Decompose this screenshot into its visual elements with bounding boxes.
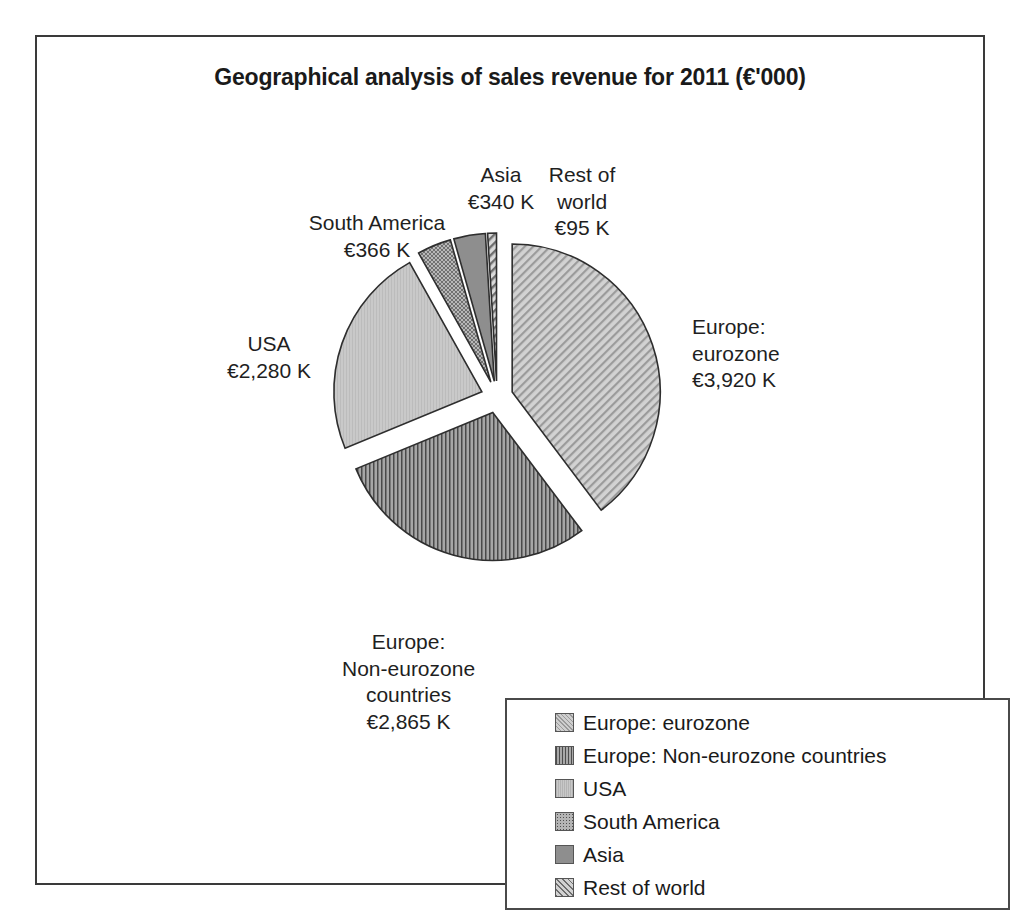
chart-frame: Geographical analysis of sales revenue f… <box>35 35 985 885</box>
slice-label-eurozone: Europe: eurozone €3,920 K <box>692 314 780 394</box>
legend-label: Europe: Non-eurozone countries <box>583 744 887 768</box>
legend-label: Asia <box>583 843 624 867</box>
legend-label: South America <box>583 810 720 834</box>
slice-label-noneurozone-line1: Europe: <box>342 629 475 656</box>
slice-label-noneurozone-line2: Non-eurozone <box>342 656 475 683</box>
legend-item[interactable]: Asia <box>555 838 1008 871</box>
slice-label-noneurozone-value: €2,865 K <box>342 709 475 736</box>
slice-label-eurozone-value: €3,920 K <box>692 367 780 394</box>
legend-item[interactable]: USA <box>555 772 1008 805</box>
legend-label: Rest of world <box>583 876 706 900</box>
legend-label: Europe: eurozone <box>583 711 750 735</box>
slice-label-usa-line1: USA <box>189 331 349 358</box>
slice-label-southamerica: South America €366 K <box>282 210 472 263</box>
legend-label: USA <box>583 777 626 801</box>
pie-slice[interactable] <box>512 244 660 510</box>
legend-item[interactable]: Europe: eurozone <box>555 706 1008 739</box>
legend-swatch-usa-icon <box>555 779 574 798</box>
pie-slice[interactable] <box>488 233 497 381</box>
legend-item[interactable]: Rest of world <box>555 871 1008 904</box>
page-title: Geographical analysis of sales revenue f… <box>37 64 983 91</box>
pie-slice[interactable] <box>334 263 482 449</box>
legend-swatch-restofworld-icon <box>555 878 574 897</box>
slice-label-southamerica-value: €366 K <box>282 237 472 264</box>
slice-label-usa-value: €2,280 K <box>189 358 349 385</box>
chart-legend: Europe: eurozone Europe: Non-eurozone co… <box>505 698 1010 910</box>
legend-swatch-asia-icon <box>555 845 574 864</box>
slice-label-restofworld-line1: Rest of <box>532 162 632 189</box>
legend-item[interactable]: South America <box>555 805 1008 838</box>
slice-label-restofworld-line2: world <box>532 189 632 216</box>
legend-swatch-noneurozone-icon <box>555 746 574 765</box>
legend-item[interactable]: Europe: Non-eurozone countries <box>555 739 1008 772</box>
pie-slice[interactable] <box>356 412 582 560</box>
slice-label-noneurozone: Europe: Non-eurozone countries €2,865 K <box>342 629 475 736</box>
slice-label-eurozone-line1: Europe: <box>692 314 780 341</box>
legend-swatch-southamerica-icon <box>555 812 574 831</box>
slice-label-usa: USA €2,280 K <box>189 331 349 384</box>
slice-label-restofworld-value: €95 K <box>532 215 632 242</box>
slice-label-noneurozone-line3: countries <box>342 682 475 709</box>
slice-label-restofworld: Rest of world €95 K <box>532 162 632 242</box>
legend-swatch-eurozone-icon <box>555 713 574 732</box>
slice-label-southamerica-line1: South America <box>282 210 472 237</box>
slice-label-eurozone-line2: eurozone <box>692 341 780 368</box>
